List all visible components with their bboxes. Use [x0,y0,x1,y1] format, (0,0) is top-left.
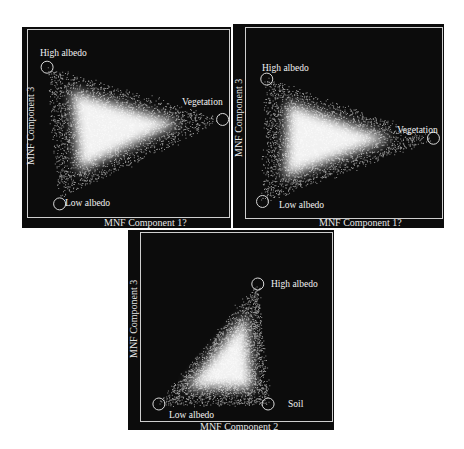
x-axis-label-3: MNF Component 2 [200,421,278,430]
x-axis-label-1: MNF Component 1? [104,217,187,228]
endmember-circle-high-albedo [252,278,264,290]
annotation-vegetation-2: Vegetation [397,125,438,135]
y-axis-label-1: MNF Component 3 [25,87,36,165]
y-axis-label-3: MNF Component 3 [128,280,139,358]
scatter-plot-3: MNF Component 3 MNF Component 2 High alb… [128,230,334,430]
annotation-high-albedo-1: High albedo [40,48,87,58]
annotation-soil-3: Soil [288,399,303,409]
endmember-circle-soil [262,398,274,410]
endmember-circle-low-albedo [257,195,269,207]
scatter-plot-1: MNF Component 3 MNF Component 1? High al… [22,27,231,228]
endmember-circle-high-albedo [261,73,273,85]
annotation-low-albedo-2: Low albedo [279,200,324,210]
scatter-plot-2: MNF Component 3 MNF Component 1? High al… [233,24,444,228]
annotation-low-albedo-1: Low albedo [65,198,110,208]
endmember-circle-vegetation [217,113,229,125]
annotation-high-albedo-2: High albedo [262,63,309,73]
annotation-high-albedo-3: High albedo [271,279,318,289]
endmember-circle-low-albedo [153,398,165,410]
endmember-circle-low-albedo [54,198,66,210]
annotation-vegetation-1: Vegetation [182,97,223,107]
annotation-low-albedo-3: Low albedo [169,410,214,420]
y-axis-label-2: MNF Component 3 [233,79,244,157]
endmember-circle-high-albedo [41,61,53,73]
x-axis-label-2: MNF Component 1? [319,217,402,228]
